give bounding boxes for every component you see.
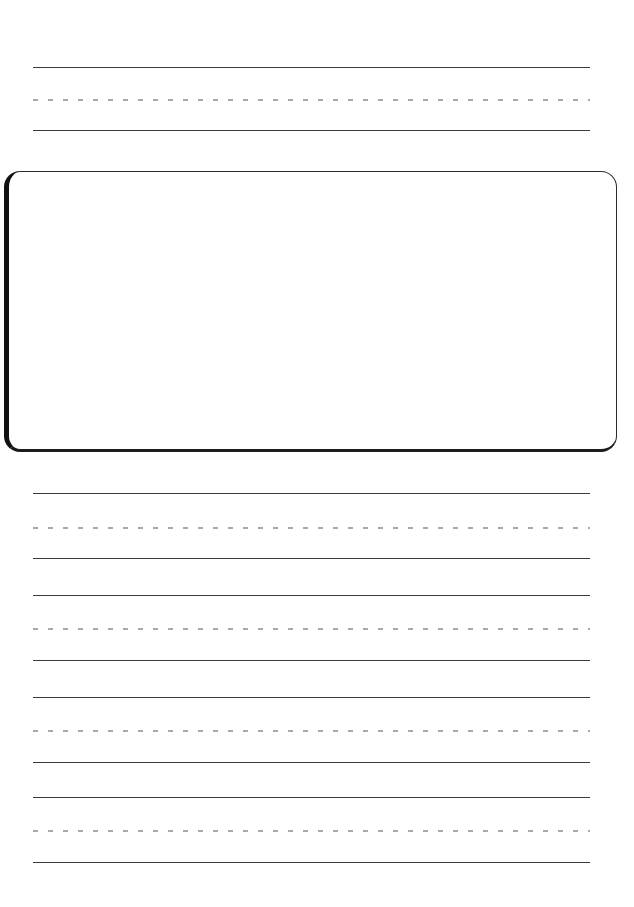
- guideline-topline: [33, 595, 590, 596]
- guideline-midline-dashed: [33, 527, 590, 529]
- guideline-topline: [33, 797, 590, 798]
- guideline-topline: [33, 697, 590, 698]
- guideline-baseline: [33, 762, 590, 763]
- guideline-topline: [33, 493, 590, 494]
- worksheet-page: [0, 0, 634, 907]
- drawing-area[interactable]: [4, 171, 617, 452]
- guideline-midline-dashed: [33, 628, 590, 630]
- guideline-baseline: [33, 660, 590, 661]
- guideline-topline: [33, 67, 590, 68]
- guideline-midline-dashed: [33, 99, 590, 101]
- guideline-midline-dashed: [33, 830, 590, 832]
- guideline-baseline: [33, 130, 590, 131]
- guideline-baseline: [33, 862, 590, 863]
- guideline-baseline: [33, 558, 590, 559]
- guideline-midline-dashed: [33, 730, 590, 732]
